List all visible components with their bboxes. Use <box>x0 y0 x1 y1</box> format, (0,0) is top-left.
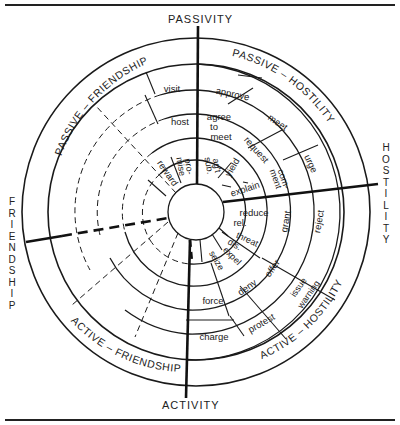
segment-protest: protest <box>246 311 277 335</box>
friendship-axis-dashed <box>62 218 168 236</box>
segment-agree-3: meet <box>210 131 231 142</box>
quadrant-passive-hostility: PASSIVE – HOSTILITY <box>231 46 337 125</box>
segments-passive-friendship: visit host reward pro- mise <box>155 83 195 188</box>
segment-meet: meet <box>266 112 290 133</box>
segment-reduce-2: rel. <box>233 217 246 228</box>
segment-visit: visit <box>164 83 181 94</box>
segment-grant: grant <box>278 209 293 233</box>
segment-force: force <box>202 295 223 306</box>
friendship-dashed-radials <box>72 106 178 337</box>
segment-promise-2: mise <box>174 156 187 176</box>
segment-charge: charge <box>199 331 228 342</box>
quadrant-passive-friendship: PASSIVE – FRIENDSHIP <box>52 54 150 157</box>
quadrant-active-friendship: ACTIVE – FRIENDSHIP <box>69 314 182 374</box>
segment-urge: urge <box>302 153 320 175</box>
segment-host: host <box>171 116 189 127</box>
segment-approve: approve <box>215 85 251 103</box>
segment-explain: explain <box>229 179 261 199</box>
segment-reject: reject <box>311 209 326 234</box>
center-hub <box>168 184 224 240</box>
conflict-circle-diagram: PASSIVE – FRIENDSHIP PASSIVE – HOSTILITY… <box>0 0 400 425</box>
segment-yield: yield <box>222 156 241 178</box>
